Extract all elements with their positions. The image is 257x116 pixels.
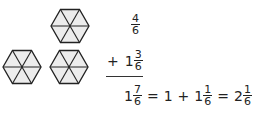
equals-sign: = xyxy=(147,88,159,104)
equals-sign: = xyxy=(217,88,229,104)
addend-two: +1 3 6 xyxy=(107,49,143,72)
result-row: 1 7 6 =1+1 1 6 =2 1 6 xyxy=(124,84,252,107)
fraction-seven-sixths: 7 6 xyxy=(133,84,142,107)
plus-sign: + xyxy=(178,88,190,104)
hexagon-bottom-right-icon xyxy=(49,47,89,87)
addend-one: 4 6 xyxy=(131,13,140,36)
fraction-one-sixth: 1 6 xyxy=(203,84,212,107)
hexagon-top-icon xyxy=(50,6,90,46)
fraction-three-sixths: 3 6 xyxy=(134,49,143,72)
fraction-final-one-sixth: 1 6 xyxy=(243,84,252,107)
sum-line xyxy=(106,76,143,77)
hexagon-bottom-left-icon xyxy=(2,47,42,87)
fraction-four-sixths: 4 6 xyxy=(131,13,140,36)
whole-number: 1 xyxy=(125,53,134,69)
plus-sign: + xyxy=(107,53,119,69)
